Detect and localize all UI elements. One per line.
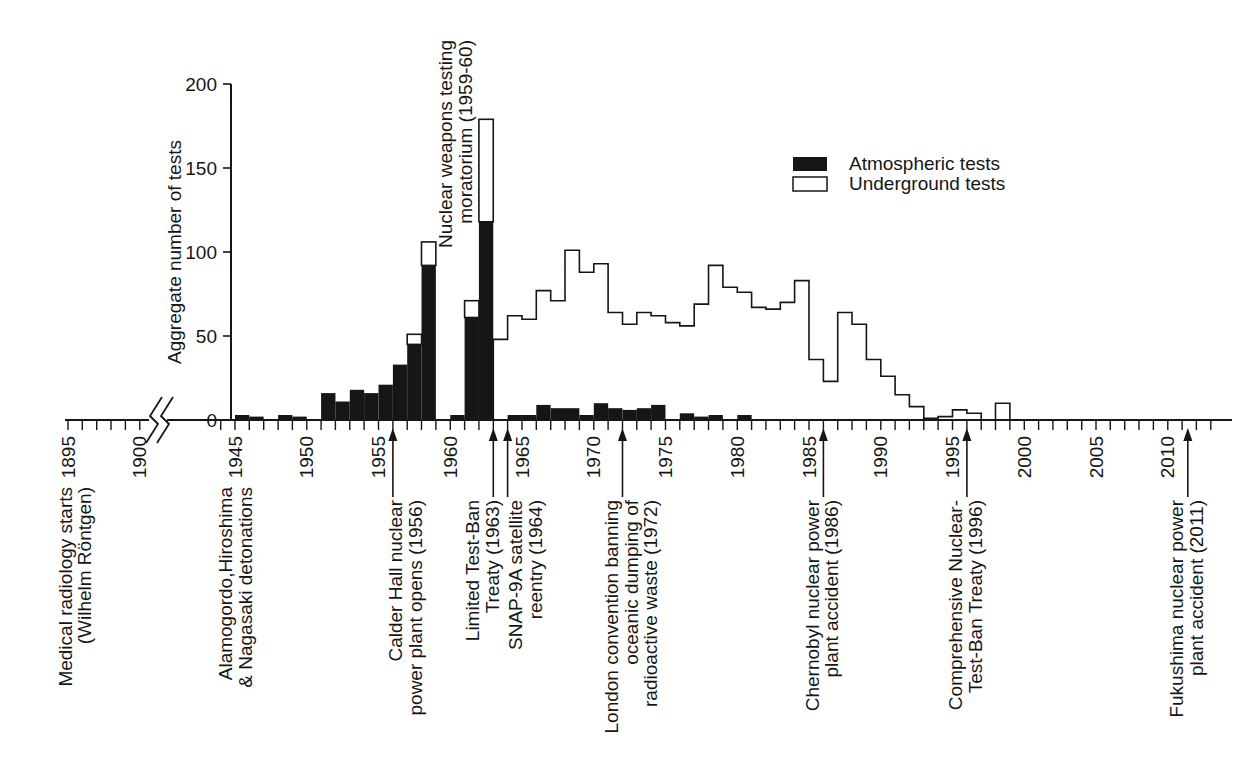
x-tick-label-1975: 1975 [655,436,676,478]
annotation-alamogordo-hiroshima-nagasaki-line-1: Alamogordo,Hiroshima [215,487,236,681]
annotation-arrowhead-chernobyl-accident-icon [819,428,828,441]
annotation-snap-9a-reentry-line-1: SNAP-9A satellite [505,500,526,650]
annotation-testing-moratorium-line-2: moratorium (1959-60) [455,40,476,224]
bar-atmospheric-1966 [536,405,550,420]
bar-underground-1958 [422,242,436,266]
bar-atmospheric-1972 [623,410,637,420]
bar-atmospheric-1956 [393,365,407,420]
x-tick-label-2000: 2000 [1014,436,1035,478]
y-tick-label-0: 0 [206,410,217,431]
annotation-comprehensive-test-ban-treaty-line-2: Test-Ban Treaty (1996) [965,500,986,693]
bar-atmospheric-1971 [608,408,622,420]
annotation-london-convention-line-2: oceanic dumping of [621,499,642,664]
bar-atmospheric-1967 [551,408,565,420]
annotation-arrowhead-fukushima-accident-icon [1183,428,1192,441]
chart-figure: 0501001502001895190019451950195519601965… [0,0,1258,764]
bar-atmospheric-1976 [680,413,694,420]
bar-atmospheric-1952 [335,402,349,421]
annotation-chernobyl-accident-line-1: Chernobyl nuclear power [802,499,823,711]
annotation-arrowhead-calder-hall-icon [388,428,397,441]
annotation-fukushima-accident-line-2: plant accident (2011) [1186,500,1207,676]
bar-atmospheric-1961 [465,318,479,421]
plot-area: 0501001502001895190019451950195519601965… [55,40,1232,733]
annotation-arrowhead-comprehensive-test-ban-treaty-icon [962,428,971,441]
y-tick-label-150: 150 [185,158,217,179]
annotation-fukushima-accident-line-1: Fukushima nuclear power [1166,499,1187,717]
x-tick-label-2010: 2010 [1157,436,1178,478]
underground-tests-outline [493,250,1010,420]
nuclear-tests-timeline-chart: 0501001502001895190019451950195519601965… [0,0,1258,764]
bar-atmospheric-1957 [407,344,421,420]
x-tick-label-1965: 1965 [512,436,533,478]
x-tick-label-1955: 1955 [368,436,389,478]
x-tick-label-1960: 1960 [440,436,461,478]
x-tick-label-1980: 1980 [727,436,748,478]
bar-atmospheric-1968 [565,408,579,420]
annotation-snap-9a-reentry-line-2: reentry (1964) [525,500,546,619]
x-tick-label-1895: 1895 [58,436,79,478]
y-tick-label-100: 100 [185,242,217,263]
bar-atmospheric-1970 [594,403,608,420]
legend-swatch-atmospheric-icon [793,157,827,171]
annotation-london-convention-line-3: radioactive waste (1972) [640,500,661,707]
annotation-chernobyl-accident-line-2: plant accident (1986) [821,500,842,677]
annotation-comprehensive-test-ban-treaty-line-1: Comprehensive Nuclear- [945,500,966,710]
annotation-calder-hall-line-1: Calder Hall nuclear [385,499,406,661]
x-tick-label-1900: 1900 [129,436,150,478]
bar-atmospheric-1962 [479,222,493,420]
x-tick-label-1995: 1995 [942,436,963,478]
annotation-arrowhead-london-convention-icon [618,428,627,441]
bar-atmospheric-1973 [637,408,651,420]
x-tick-label-2005: 2005 [1086,436,1107,478]
annotation-testing-moratorium-line-1: Nuclear weapons testing [435,40,456,248]
annotation-limited-test-ban-treaty-line-1: Limited Test-Ban [462,500,483,641]
x-tick-label-1970: 1970 [583,436,604,478]
bar-atmospheric-1954 [364,393,378,420]
y-axis-title: Aggregate number of tests [164,140,185,364]
x-tick-label-1945: 1945 [225,436,246,478]
bar-underground-1961 [465,301,479,318]
legend-label-underground: Underground tests [849,173,1005,194]
annotation-london-convention-line-1: London convention banning [601,500,622,733]
annotation-calder-hall-line-2: power plant opens (1956) [405,500,426,715]
bar-atmospheric-1951 [321,393,335,420]
legend-label-atmospheric: Atmospheric tests [849,153,1000,174]
bar-atmospheric-1955 [379,385,393,420]
bar-atmospheric-1974 [651,405,665,420]
bar-atmospheric-1953 [350,390,364,420]
annotation-medical-radiology-line-2: (Wilhelm Röntgen) [74,487,95,644]
bar-underground-1962 [479,119,493,222]
x-tick-label-1990: 1990 [870,436,891,478]
bar-atmospheric-1958 [422,265,436,420]
bar-underground-1957 [407,334,421,344]
annotation-arrowhead-snap-9a-reentry-icon [503,428,512,441]
annotation-medical-radiology-line-1: Medical radiology starts [55,487,76,687]
annotation-alamogordo-hiroshima-nagasaki-line-2: & Nagasaki detonations [235,487,256,688]
annotation-arrowhead-limited-test-ban-treaty-icon [489,428,498,441]
annotation-limited-test-ban-treaty-line-2: Treaty (1963) [482,500,503,613]
y-tick-label-200: 200 [185,74,217,95]
legend: Atmospheric tests Underground tests [793,153,1005,194]
x-tick-label-1985: 1985 [799,436,820,478]
x-tick-label-1950: 1950 [296,436,317,478]
legend-swatch-underground-icon [793,177,827,191]
y-tick-label-50: 50 [196,326,217,347]
